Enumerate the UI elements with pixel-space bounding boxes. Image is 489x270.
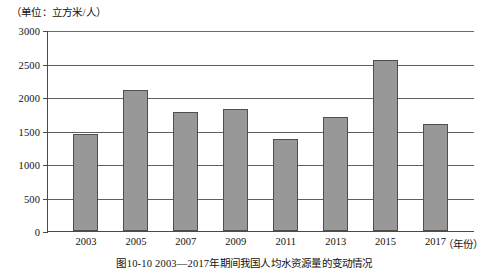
x-axis-tick-label: 2013 [325,236,346,247]
bar [173,112,198,231]
bar [373,60,398,231]
y-axis-tick-label: 3000 [19,26,40,37]
y-axis-tick-label: 1500 [19,126,40,137]
x-axis-tick-label: 2011 [275,236,296,247]
gridline [47,98,474,99]
bar [323,117,348,231]
plot-area: 050010001500200025003000 [47,31,474,232]
bar [273,139,298,231]
y-axis-tick [43,165,48,166]
x-axis-tick-label: 2003 [75,236,96,247]
bar [223,109,248,231]
y-axis-tick-label: 2000 [19,93,40,104]
y-axis-unit-label: （单位：立方米/人） [11,4,106,19]
gridline [47,31,474,32]
x-axis-tick-label: 2015 [375,236,396,247]
figure-caption: 图10-10 2003—2017年期间我国人均水资源量的变动情况 [0,255,489,270]
gridline [47,165,474,166]
y-axis-tick-label: 500 [24,193,40,204]
bar [423,124,448,231]
gridline [47,65,474,66]
x-axis-tick-label: 2005 [125,236,146,247]
gridline [47,132,474,133]
x-axis-title: （年份） [443,236,483,251]
y-axis-tick-label: 0 [35,227,40,238]
y-axis-tick [43,31,48,32]
y-axis-tick [43,232,48,233]
y-axis-tick-label: 2500 [19,59,40,70]
x-axis-baseline [47,231,474,232]
x-axis-tick-labels: 20032005200720092011201320152017 [47,236,474,252]
bar [73,134,98,231]
x-axis-tick-label: 2009 [225,236,246,247]
y-axis-tick [43,65,48,66]
x-axis-tick-label: 2007 [175,236,196,247]
y-axis-tick [43,132,48,133]
y-axis-tick [43,98,48,99]
y-axis-tick [43,199,48,200]
bar [123,90,148,231]
gridline [47,199,474,200]
y-axis-tick-label: 1000 [19,160,40,171]
